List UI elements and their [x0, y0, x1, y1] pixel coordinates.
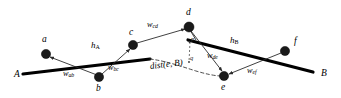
- endpoint-label-A: A: [14, 70, 20, 80]
- node-dot-e: [219, 71, 228, 80]
- node-label-d: d: [186, 8, 191, 18]
- edge-weight-de: wde: [207, 52, 218, 61]
- edge-weight-ef: wef: [247, 67, 257, 76]
- node-label-e: e: [221, 83, 225, 93]
- edge-weight-bc: wbc: [108, 64, 119, 73]
- geometry-figure: A B a b c d e f wab wbc wcd wde wef hA h…: [0, 0, 341, 98]
- node-label-c: c: [129, 28, 133, 38]
- segment-label-hA-sub: A: [96, 44, 100, 50]
- edge-weight-ef-sub: ef: [252, 69, 256, 75]
- segment-label-hB: hB: [230, 36, 239, 45]
- edge-cd: [137, 29, 185, 43]
- node-label-a: a: [42, 35, 47, 45]
- node-dot-a: [41, 49, 50, 58]
- segment-label-hB-sub: B: [235, 39, 239, 45]
- annotation-point-p: p: [191, 36, 194, 43]
- edge-weight-cd-sub: cd: [152, 23, 157, 29]
- edge-weight-cd: wcd: [147, 21, 158, 30]
- node-dot-d: [184, 22, 194, 32]
- edge-weight-ab: wab: [63, 70, 74, 79]
- figure-canvas: [0, 0, 341, 98]
- node-dot-b: [94, 72, 103, 81]
- edge-weight-bc-sub: bc: [113, 66, 118, 72]
- annotation-point-q: q: [190, 55, 193, 62]
- node-dot-c: [128, 40, 137, 49]
- edge-weight-ab-sub: ab: [68, 72, 74, 78]
- node-dot-f: [280, 46, 289, 55]
- node-label-b: b: [96, 84, 101, 94]
- node-label-f: f: [294, 37, 297, 47]
- endpoint-label-B: B: [321, 69, 327, 79]
- segment-label-hA: hA: [91, 41, 100, 50]
- thick-segment-A: [23, 59, 150, 74]
- edge-weight-de-sub: de: [212, 54, 217, 60]
